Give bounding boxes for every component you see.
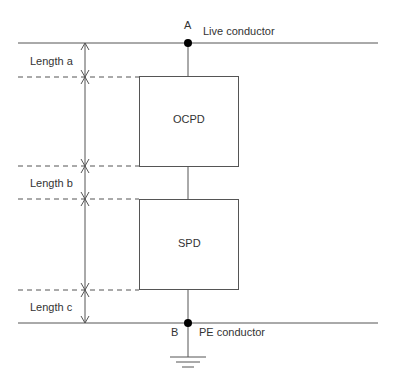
spd-label: SPD [178, 238, 201, 249]
node-a-label: A [184, 20, 191, 31]
node-b-label: B [171, 327, 178, 338]
live-conductor-label: Live conductor [203, 26, 275, 37]
ground-icon [170, 357, 206, 367]
pe-conductor-label: PE conductor [199, 327, 265, 338]
node-b-dot [184, 319, 192, 327]
length-b-label: Length b [30, 178, 73, 189]
length-a-label: Length a [30, 56, 73, 67]
ocpd-label: OCPD [173, 114, 205, 125]
node-a-dot [184, 39, 192, 47]
length-c-label: Length c [30, 302, 72, 313]
